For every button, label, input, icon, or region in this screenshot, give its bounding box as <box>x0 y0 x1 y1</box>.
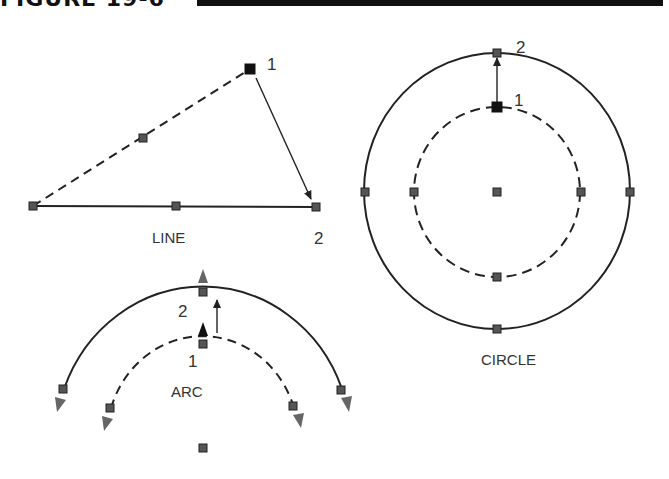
circle-outer-grip-bottom[interactable] <box>493 325 501 333</box>
line-move-arrow <box>256 78 311 199</box>
arc-outer-left-triangle-icon <box>55 397 66 412</box>
arc-inner-grip-top[interactable] <box>199 340 207 348</box>
arc-diagram: 2 1 ARC <box>55 269 352 452</box>
arc-outer-grip-top[interactable] <box>199 288 207 296</box>
circle-point-2-label: 2 <box>516 38 525 57</box>
arc-inner-grip-right[interactable] <box>289 402 297 410</box>
arc-outer-grip-left[interactable] <box>59 385 67 393</box>
line-grip-dashed-mid[interactable] <box>139 134 147 142</box>
line-grip-right[interactable] <box>312 203 320 211</box>
line-grip-selected[interactable] <box>245 64 255 74</box>
arc-inner-grip-left[interactable] <box>106 404 114 412</box>
circle-inner-grip-left[interactable] <box>410 188 418 196</box>
arc-outer-right-triangle-icon <box>341 396 352 412</box>
circle-center-grip[interactable] <box>493 188 501 196</box>
circle-caption: CIRCLE <box>481 351 536 368</box>
circle-outer-grip-right[interactable] <box>626 188 634 196</box>
arc-outer-solid <box>64 287 342 389</box>
diagram-canvas: 1 2 LINE 2 1 CIRCLE <box>0 0 669 479</box>
arc-caption: ARC <box>171 383 203 400</box>
circle-point-1-label: 1 <box>514 91 523 110</box>
circle-inner-grip-right[interactable] <box>577 188 585 196</box>
arc-inner-left-triangle-icon <box>102 416 113 431</box>
arc-inner-top-triangle-icon <box>198 322 208 336</box>
arc-point-2-label: 2 <box>178 302 187 321</box>
circle-outer-grip-left[interactable] <box>361 188 369 196</box>
line-grip-solid-mid[interactable] <box>172 202 180 210</box>
line-diagram: 1 2 LINE <box>29 55 323 248</box>
arc-inner-right-triangle-icon <box>293 413 304 428</box>
circle-inner-grip-selected[interactable] <box>492 102 502 112</box>
arc-outer-top-triangle-icon <box>198 269 208 283</box>
line-point-2-label: 2 <box>314 229 323 248</box>
circle-outer-grip-top[interactable] <box>493 49 501 57</box>
arc-center-grip[interactable] <box>199 444 207 452</box>
arc-point-1-label: 1 <box>188 352 197 371</box>
circle-inner-grip-bottom[interactable] <box>493 273 501 281</box>
circle-diagram: 2 1 CIRCLE <box>361 38 634 368</box>
arc-outer-grip-right[interactable] <box>337 386 345 394</box>
line-point-1-label: 1 <box>267 55 276 74</box>
line-caption: LINE <box>152 229 185 246</box>
line-grip-left[interactable] <box>29 202 37 210</box>
